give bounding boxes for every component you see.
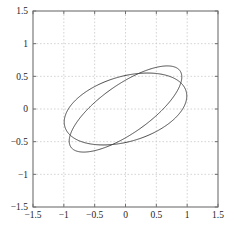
y-tick-label: 1.5	[16, 6, 28, 16]
x-tick-label: 0.5	[150, 210, 162, 220]
y-tick-label: −1	[18, 170, 28, 180]
x-tick-label: 1	[185, 210, 190, 220]
x-axis-tick-labels: −1.5−1−0.500.511.5	[24, 210, 224, 220]
y-tick-label: 1	[23, 39, 28, 49]
y-tick-label: 0.5	[16, 72, 28, 82]
y-axis-tick-labels: −1.5−1−0.500.511.5	[11, 6, 28, 212]
x-tick-label: 1.5	[212, 210, 224, 220]
y-tick-label: −0.5	[11, 137, 28, 147]
figure-container: −1.5−1−0.500.511.5 −1.5−1−0.500.511.5	[0, 0, 235, 235]
x-tick-label: 0	[123, 210, 128, 220]
y-tick-label: 0	[23, 104, 28, 114]
x-tick-label: −0.5	[86, 210, 103, 220]
chart-canvas: −1.5−1−0.500.511.5 −1.5−1−0.500.511.5	[0, 0, 235, 235]
y-tick-label: −1.5	[11, 202, 28, 212]
x-tick-label: −1	[59, 210, 69, 220]
